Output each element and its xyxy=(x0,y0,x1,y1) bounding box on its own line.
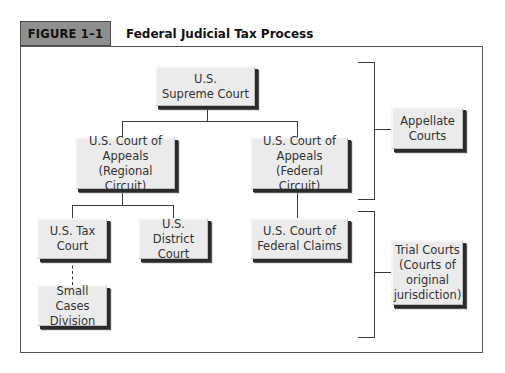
bracket-trial-arm xyxy=(374,272,391,273)
bracket-trial-bottom xyxy=(358,337,375,338)
bracket-trial-vertical xyxy=(374,211,375,338)
bracket-trial-top xyxy=(358,211,375,212)
node-small-cases-label: Small Cases Division xyxy=(41,284,104,329)
bracket-appellate-arm xyxy=(374,129,391,130)
node-appeals-regional: U.S. Court of Appeals (Regional Circuit) xyxy=(75,137,175,189)
connector-federal-down xyxy=(297,190,298,218)
node-supreme-court-label: U.S. Supreme Court xyxy=(162,72,249,102)
group-appellate-label: Appellate Courts xyxy=(400,114,455,144)
connector-small-cases-dashed xyxy=(72,260,73,285)
connector-appeals-horizontal xyxy=(122,121,298,122)
node-federal-claims-label: U.S. Court of Federal Claims xyxy=(257,224,342,254)
node-appeals-regional-label: U.S. Court of Appeals (Regional Circuit) xyxy=(79,134,172,194)
node-tax-court: U.S. Tax Court xyxy=(37,218,107,259)
group-trial-label: Trial Courts (Courts of original jurisdi… xyxy=(394,243,462,303)
bracket-appellate-vertical xyxy=(374,62,375,200)
bracket-appellate-top xyxy=(358,62,375,63)
node-small-cases-division: Small Cases Division xyxy=(37,285,107,326)
group-appellate-courts: Appellate Courts xyxy=(391,107,463,149)
node-district-court: U.S. District Court xyxy=(138,218,208,259)
node-district-court-label: U.S. District Court xyxy=(142,217,205,262)
figure-title: Federal Judicial Tax Process xyxy=(126,21,313,46)
figure-label: FIGURE 1–1 xyxy=(20,21,111,46)
connector-trial-horizontal xyxy=(72,205,174,206)
node-appeals-federal-label: U.S. Court of Appeals (Federal Circuit) xyxy=(254,134,345,194)
node-federal-claims: U.S. Court of Federal Claims xyxy=(250,218,348,259)
node-tax-court-label: U.S. Tax Court xyxy=(50,224,96,254)
connector-supreme-down xyxy=(207,108,208,122)
node-supreme-court: U.S. Supreme Court xyxy=(155,66,255,106)
group-trial-courts: Trial Courts (Courts of original jurisdi… xyxy=(391,240,463,305)
connector-tax-up xyxy=(72,205,73,218)
bracket-appellate-bottom xyxy=(358,199,375,200)
node-appeals-federal: U.S. Court of Appeals (Federal Circuit) xyxy=(250,137,348,189)
